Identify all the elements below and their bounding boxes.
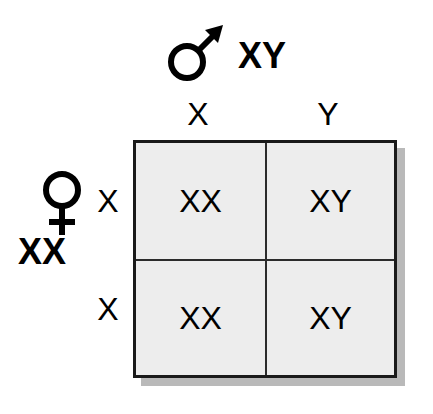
punnett-cell-offspring: XY (265, 143, 394, 259)
male-genotype-label: XY (238, 38, 286, 74)
punnett-square-diagram: XY XX X Y X X XX XY XX XY (0, 0, 433, 414)
column-header-gamete-1: X (178, 98, 218, 130)
punnett-cell-offspring: XY (265, 259, 394, 375)
row-header-gamete-1: X (88, 185, 128, 217)
male-symbol-icon (163, 22, 227, 84)
punnett-cell-offspring: XX (136, 259, 265, 375)
female-genotype-label: XX (18, 234, 66, 270)
female-symbol-icon (36, 168, 88, 238)
column-header-gamete-2: Y (308, 98, 348, 130)
punnett-grid: XX XY XX XY (133, 140, 397, 378)
punnett-cell-offspring: XX (136, 143, 265, 259)
row-header-gamete-2: X (88, 293, 128, 325)
